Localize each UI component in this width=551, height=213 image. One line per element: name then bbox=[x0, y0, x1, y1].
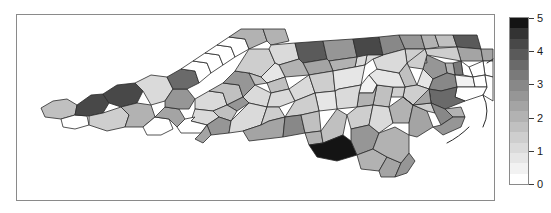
county-polygon bbox=[353, 37, 383, 57]
outer-banks-line bbox=[483, 95, 487, 127]
north-carolina-choropleth bbox=[17, 15, 494, 200]
colorbar-gradient bbox=[510, 18, 528, 184]
colorbar-tick-mark bbox=[529, 184, 534, 185]
county-polygon bbox=[481, 49, 493, 61]
colorbar-tick-mark bbox=[529, 84, 534, 85]
county-polygon bbox=[263, 29, 289, 45]
colorbar-tick-label: 0 bbox=[537, 179, 543, 190]
county-polygon bbox=[455, 75, 475, 87]
colorbar-tick-label: 3 bbox=[537, 79, 543, 90]
colorbar-tick-label: 1 bbox=[537, 146, 543, 157]
map-axes bbox=[16, 14, 495, 201]
county-polygon bbox=[167, 69, 199, 89]
colorbar-tick-mark bbox=[529, 118, 534, 119]
county-polygon bbox=[305, 131, 323, 145]
colorbar-tick-label: 5 bbox=[537, 13, 543, 24]
colorbar-tick-label: 2 bbox=[537, 113, 543, 124]
county-polygon bbox=[433, 117, 465, 135]
colorbar-tick-group: 5 4 3 2 1 0 bbox=[529, 0, 551, 213]
colorbar bbox=[509, 17, 529, 185]
colorbar-tick-label: 4 bbox=[537, 46, 543, 57]
figure-canvas: 5 4 3 2 1 0 bbox=[0, 0, 551, 213]
colorbar-tick-mark bbox=[529, 51, 534, 52]
colorbar-tick-mark bbox=[529, 18, 534, 19]
county-polygon bbox=[457, 47, 483, 61]
colorbar-tick-mark bbox=[529, 151, 534, 152]
county-polygon bbox=[301, 111, 321, 133]
